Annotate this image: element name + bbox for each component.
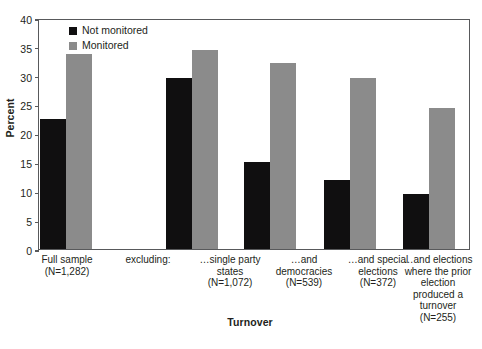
y-tick-15: 15 xyxy=(20,158,39,170)
x-category-line: produced a xyxy=(392,289,482,301)
bar-not-monitored-prior-turnover[interactable] xyxy=(403,194,429,249)
y-tick-mark xyxy=(35,193,39,194)
y-tick-mark xyxy=(35,19,39,20)
y-tick-label: 30 xyxy=(20,73,35,84)
y-tick-40: 40 xyxy=(20,14,39,26)
x-category-line: turnover xyxy=(392,300,482,312)
y-axis-title: Percent xyxy=(4,86,16,150)
y-tick-mark xyxy=(35,222,39,223)
y-tick-label: 5 xyxy=(26,217,35,228)
y-tick-label: 15 xyxy=(20,159,35,170)
legend-item-not-monitored[interactable]: Not monitored xyxy=(69,23,229,38)
x-category-line: (N=1,282) xyxy=(19,266,115,278)
bar-chart-figure: Percent 40 35 30 25 20 15 10 5 0 Not mon… xyxy=(0,0,482,349)
y-tick-mark xyxy=(35,164,39,165)
bar-not-monitored-special-elections[interactable] xyxy=(324,180,350,249)
legend-label: Monitored xyxy=(82,40,129,51)
y-tick-label: 35 xyxy=(20,44,35,55)
y-tick-mark xyxy=(35,135,39,136)
y-tick-label: 20 xyxy=(20,130,35,141)
x-category-prior-turnover: …and elections where the prior election … xyxy=(392,254,482,324)
x-category-excluding: excluding: xyxy=(112,254,184,266)
y-tick-label: 10 xyxy=(20,188,35,199)
y-tick-mark xyxy=(35,77,39,78)
x-category-line: excluding: xyxy=(112,254,184,266)
x-category-line: election xyxy=(392,277,482,289)
bar-not-monitored-full-sample[interactable] xyxy=(40,119,66,249)
y-tick-20: 20 xyxy=(20,130,39,142)
legend-swatch-icon xyxy=(69,27,77,35)
y-tick-30: 30 xyxy=(20,72,39,84)
y-tick-label: 40 xyxy=(20,15,35,26)
x-category-line: …and elections xyxy=(392,254,482,266)
bar-monitored-prior-turnover[interactable] xyxy=(429,108,455,249)
x-category-full-sample: Full sample (N=1,282) xyxy=(19,254,115,277)
y-tick-35: 35 xyxy=(20,43,39,55)
bar-not-monitored-democracies[interactable] xyxy=(244,162,270,249)
y-tick-5: 5 xyxy=(26,216,39,228)
x-axis-title: Turnover xyxy=(0,316,482,328)
y-tick-mark xyxy=(35,48,39,49)
y-tick-25: 25 xyxy=(20,101,39,113)
plot-area: 40 35 30 25 20 15 10 5 0 Not monitored M… xyxy=(38,19,470,250)
bar-monitored-democracies[interactable] xyxy=(270,63,296,249)
bar-not-monitored-single-party-states[interactable] xyxy=(166,78,192,249)
y-tick-label: 25 xyxy=(20,101,35,112)
x-category-line: where the prior xyxy=(392,266,482,278)
legend-label: Not monitored xyxy=(82,25,148,36)
y-tick-mark xyxy=(35,106,39,107)
y-tick-10: 10 xyxy=(20,187,39,199)
bar-monitored-special-elections[interactable] xyxy=(350,78,376,249)
bar-monitored-full-sample[interactable] xyxy=(66,54,92,249)
y-tick-mark xyxy=(35,250,39,251)
legend: Not monitored Monitored xyxy=(69,23,229,53)
legend-swatch-icon xyxy=(69,42,77,50)
x-category-line: Full sample xyxy=(19,254,115,266)
bar-monitored-single-party-states[interactable] xyxy=(192,50,218,249)
